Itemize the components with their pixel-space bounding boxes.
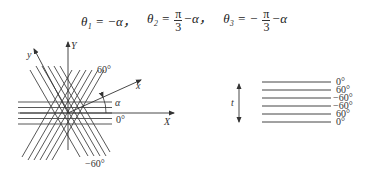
alpha-label: α [115,97,121,108]
rotated-x-axis [68,80,141,113]
ply-label-0: 0° [116,114,125,125]
alpha-angle-arc [103,97,106,113]
sixty-degree-ply-lines [22,70,104,160]
ply-label-minus-60: −60° [85,158,105,169]
ply-label-60: 60° [97,64,111,75]
right-stacking-sequence-diagram: t 0° 60° −60° −60° 60° 0° [231,76,353,127]
stack-ply-lines [262,82,331,122]
thickness-label: t [231,97,234,108]
rotated-y-label: y [26,49,32,60]
left-ply-orientation-diagram: Y X x y α 60° 0° −60° [18,40,174,169]
laminate-diagrams: Y X x y α 60° 0° −60° t 0° 60° −60° −60°… [0,0,368,177]
rotated-x-label: x [135,80,141,91]
global-y-label: Y [71,40,78,51]
stack-ply-label: 0° [336,116,345,127]
global-x-label: X [163,116,171,127]
